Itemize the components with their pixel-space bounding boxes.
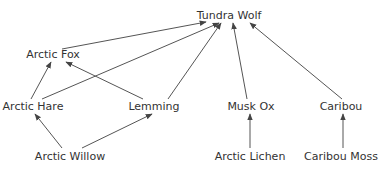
node-arctic-fox: Arctic Fox: [26, 48, 80, 61]
edge-arctic-hare-to-arctic-fox: [31, 62, 51, 99]
node-arctic-hare: Arctic Hare: [3, 100, 64, 113]
edge-musk-ox-to-tundra-wolf: [233, 23, 247, 99]
node-musk-ox: Musk Ox: [227, 100, 274, 113]
edge-arctic-willow-to-arctic-hare: [35, 114, 62, 148]
node-caribou-moss: Caribou Moss: [304, 150, 378, 163]
edge-arctic-hare-to-tundra-wolf: [42, 23, 219, 99]
node-tundra-wolf: Tundra Wolf: [197, 9, 262, 22]
edge-lemming-to-tundra-wolf: [168, 23, 221, 99]
edge-lemming-to-arctic-fox: [66, 62, 143, 99]
node-caribou: Caribou: [320, 100, 363, 113]
node-lemming: Lemming: [128, 100, 179, 113]
node-arctic-willow: Arctic Willow: [35, 150, 105, 163]
food-web-diagram: Tundra Wolf Arctic Fox Arctic Hare Lemmi…: [0, 0, 380, 172]
edge-arctic-fox-to-tundra-wolf: [62, 22, 206, 49]
edge-group: [31, 22, 343, 148]
edges-layer: [0, 0, 380, 172]
edge-caribou-to-tundra-wolf: [250, 23, 342, 99]
node-arctic-lichen: Arctic Lichen: [215, 150, 286, 163]
edge-arctic-willow-to-lemming: [82, 114, 152, 148]
